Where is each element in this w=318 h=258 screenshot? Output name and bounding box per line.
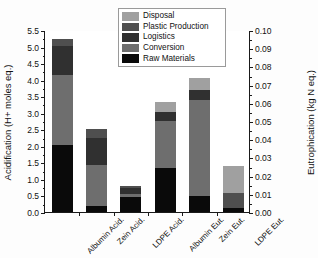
y-tick-right-minor	[249, 204, 252, 205]
y-tick-left-minor	[43, 205, 46, 206]
bar-segment-conversion	[155, 121, 176, 168]
y-tick-left-minor	[43, 122, 46, 123]
x-axis-label: LDPE Acid.	[151, 215, 186, 250]
y-tick-right	[249, 140, 253, 141]
chart-legend: DisposalPlastic ProductionLogisticsConve…	[118, 8, 226, 67]
y-tick-left-minor	[43, 188, 46, 189]
legend-swatch	[122, 23, 139, 32]
y-tick-label-left: 3.0	[27, 109, 39, 119]
legend-swatch	[122, 54, 139, 63]
y-tick-left	[41, 31, 45, 32]
y-tick-label-right: 0.04	[255, 135, 272, 145]
y-tick-right-minor	[249, 186, 252, 187]
y-tick-label-left: 5.5	[27, 26, 39, 36]
legend-swatch	[122, 12, 139, 21]
y-tick-left	[41, 48, 45, 49]
y-tick-left	[41, 196, 45, 197]
bar-segment-logistics	[52, 46, 73, 75]
y-tick-left-minor	[43, 72, 46, 73]
bar-segment-conversion	[189, 100, 210, 197]
bar-segment-raw-materials	[223, 208, 244, 212]
y-tick-label-left: 1.5	[27, 158, 39, 168]
y-tick-right	[249, 49, 253, 50]
y-tick-left	[41, 163, 45, 164]
y-tick-left	[41, 114, 45, 115]
y-tick-label-right: 0.07	[255, 81, 272, 91]
bar-ldpe-eut	[223, 166, 244, 212]
y-tick-left-minor	[43, 56, 46, 57]
y-tick-label-left: 4.0	[27, 76, 39, 86]
y-tick-left	[41, 213, 45, 214]
y-axis-left-title: Acidification (H+ moles eq.)	[2, 31, 14, 213]
y-tick-label-right: 0.10	[255, 26, 272, 36]
bar-segment-disposal	[155, 102, 176, 112]
y-tick-label-left: 4.5	[27, 59, 39, 69]
y-tick-right	[249, 67, 253, 68]
bar-zein-acid	[86, 129, 107, 212]
y-tick-left	[41, 64, 45, 65]
bar-albumin-acid	[52, 39, 73, 212]
y-tick-left	[41, 180, 45, 181]
y-tick-left-minor	[43, 172, 46, 173]
y-tick-label-right: 0.03	[255, 153, 272, 163]
y-tick-label-right: 0.08	[255, 62, 272, 72]
y-tick-label-left: 2.0	[27, 142, 39, 152]
y-tick-right-minor	[249, 95, 252, 96]
x-axis-labels: Albumin Acid.Zein Acid.LDPE Acid.Albumin…	[44, 215, 250, 258]
y-tick-right	[249, 122, 253, 123]
bar-segment-raw-materials	[155, 168, 176, 212]
y-tick-label-right: 0.06	[255, 99, 272, 109]
y-tick-label-left: 0.5	[27, 191, 39, 201]
y-tick-left	[41, 81, 45, 82]
y-tick-left	[41, 130, 45, 131]
bar-segment-plastic-production	[223, 193, 244, 208]
bar-ldpe-acid	[120, 186, 141, 212]
y-tick-right-minor	[249, 77, 252, 78]
y-tick-left-minor	[43, 39, 46, 40]
chart-figure: Acidification (H+ moles eq.) Eutrophicat…	[0, 0, 318, 258]
legend-label: Logistics	[143, 33, 175, 41]
y-tick-right	[249, 86, 253, 87]
y-tick-left	[41, 147, 45, 148]
y-tick-right-minor	[249, 58, 252, 59]
y-tick-right	[249, 177, 253, 178]
y-tick-right-minor	[249, 40, 252, 41]
legend-swatch	[122, 33, 139, 42]
bar-zein-eut	[189, 78, 210, 212]
bar-segment-plastic-production	[52, 39, 73, 46]
y-tick-left-minor	[43, 155, 46, 156]
bar-segment-conversion	[86, 165, 107, 205]
y-tick-right-minor	[249, 168, 252, 169]
y-tick-right-minor	[249, 131, 252, 132]
bar-segment-raw-materials	[120, 197, 141, 212]
bar-segment-raw-materials	[52, 145, 73, 212]
bar-segment-logistics	[86, 138, 107, 165]
x-axis-label: LDPE Eut.	[253, 215, 286, 248]
y-tick-right	[249, 31, 253, 32]
y-axis-right-title: Eutrophication (kg N eq.)	[305, 31, 317, 213]
y-tick-right	[249, 213, 253, 214]
legend-item: Disposal	[122, 11, 222, 22]
y-tick-left-minor	[43, 89, 46, 90]
y-tick-right	[249, 104, 253, 105]
legend-swatch	[122, 44, 139, 53]
legend-item: Plastic Production	[122, 22, 222, 33]
bar-albumin-eut	[155, 102, 176, 212]
y-tick-label-right: 0.05	[255, 117, 272, 127]
y-tick-right	[249, 158, 253, 159]
legend-label: Plastic Production	[143, 23, 209, 31]
y-tick-right-minor	[249, 149, 252, 150]
y-tick-left	[41, 97, 45, 98]
legend-label: Conversion	[143, 44, 184, 52]
y-tick-label-left: 3.5	[27, 92, 39, 102]
y-tick-right-minor	[249, 113, 252, 114]
bar-segment-disposal	[223, 166, 244, 193]
bar-segment-raw-materials	[189, 196, 210, 212]
bar-segment-plastic-production	[86, 129, 107, 138]
bar-segment-raw-materials	[86, 206, 107, 212]
y-tick-label-left: 0.0	[27, 208, 39, 218]
y-tick-label-right: 0.00	[255, 208, 272, 218]
y-tick-left-minor	[43, 105, 46, 106]
legend-item: Raw Materials	[122, 53, 222, 64]
legend-label: Disposal	[143, 12, 174, 20]
